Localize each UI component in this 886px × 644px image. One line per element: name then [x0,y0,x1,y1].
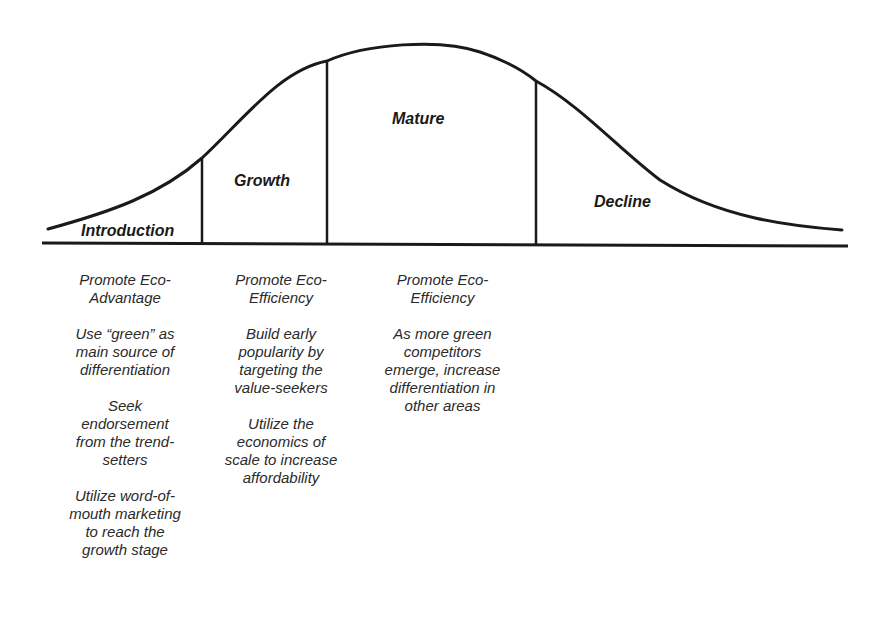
strategy-item: Promote Eco- Efficiency [206,271,356,307]
strategy-item: As more green competitors emerge, increa… [365,325,520,415]
life-cycle-curve-graphic [0,0,886,260]
strategy-item: Utilize word-of- mouth marketing to reac… [45,487,205,559]
stage-label-mature: Mature [392,110,444,128]
mature-strategies-column: Promote Eco- Efficiency As more green co… [365,271,520,433]
stage-label-growth: Growth [234,172,290,190]
stage-label-decline: Decline [594,193,651,211]
strategy-item: Build early popularity by targeting the … [206,325,356,397]
baseline-axis [42,243,848,246]
strategy-item: Promote Eco- Efficiency [365,271,520,307]
introduction-strategies-column: Promote Eco- Advantage Use “green” as ma… [45,271,205,577]
strategy-item: Utilize the economics of scale to increa… [206,415,356,487]
strategy-item: Promote Eco- Advantage [45,271,205,307]
sales-curve [48,44,842,230]
strategy-item: Use “green” as main source of differenti… [45,325,205,379]
strategy-item: Seek endorsement from the trend- setters [45,397,205,469]
growth-strategies-column: Promote Eco- Efficiency Build early popu… [206,271,356,505]
life-cycle-diagram: Introduction Growth Mature Decline [0,0,886,260]
stage-label-introduction: Introduction [81,222,174,240]
